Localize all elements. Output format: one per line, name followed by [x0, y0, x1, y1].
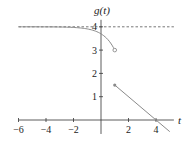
left-curve — [19, 27, 115, 50]
piecewise-function-chart: −6−4−2241234 t g(t) — [0, 0, 185, 142]
x-tick-label: −4 — [41, 124, 52, 135]
x-tick-label: 2 — [126, 124, 131, 135]
y-axis-label: g(t) — [94, 4, 110, 17]
tick-marks: −6−4−2241234 — [13, 21, 158, 135]
right-line — [115, 85, 170, 132]
closed-dot-marker — [113, 83, 116, 86]
x-tick-label: 4 — [154, 124, 159, 135]
x-tick-label: −2 — [68, 124, 79, 135]
x-axis-label: t — [178, 114, 182, 126]
x-tick-label: −6 — [13, 124, 24, 135]
data-series — [19, 27, 170, 132]
y-tick-label: 3 — [92, 45, 97, 56]
open-circle-marker — [113, 48, 117, 52]
y-tick-label: 2 — [92, 68, 97, 79]
y-tick-label: 1 — [92, 91, 97, 102]
